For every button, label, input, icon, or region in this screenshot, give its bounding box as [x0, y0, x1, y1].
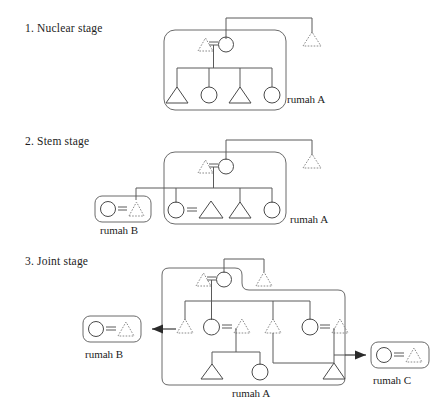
female-circle-rumah-b-stage3	[89, 322, 104, 337]
female-circle-daughter-stage2	[264, 202, 280, 218]
house-box-rumah-c-stage3	[371, 342, 429, 368]
sibling-link-stage1	[226, 18, 312, 39]
female-circle-rumah-c-stage3	[377, 348, 392, 363]
female-circle-child4-stage1	[264, 87, 280, 103]
male-triangle-brother-in-law-stage3	[256, 272, 272, 286]
female-circle-daughter2-stage3	[302, 319, 318, 335]
sibling-link-stage3	[224, 259, 264, 273]
house-box-rumah-b-stage2	[95, 196, 151, 222]
male-triangle-rumah-b-stage2	[129, 202, 144, 216]
male-triangle-outside-sibling-stage1	[303, 32, 321, 46]
stage-1-group	[164, 18, 321, 110]
male-triangle-rumah-c-stage3	[406, 348, 422, 362]
male-triangle-son2-stage3	[265, 319, 281, 333]
female-circle-grandchild2-stage3	[252, 364, 268, 380]
female-circle-mother-stage1	[219, 37, 234, 52]
diagram-svg-layer	[0, 0, 443, 410]
stage-3-group	[83, 259, 429, 385]
male-triangle-son-stage2	[229, 202, 251, 218]
house-box-rumah-a-stage1	[164, 30, 286, 110]
male-triangle-grandchild3-stage3	[323, 363, 345, 379]
female-circle-daughter1-stage3	[204, 319, 220, 335]
sibling-link-stage2	[226, 140, 312, 160]
female-circle-mother-stage3	[217, 272, 232, 287]
house-box-rumah-b-stage3	[83, 316, 141, 342]
arrow-head-to-rumah-c-stage3	[355, 351, 366, 360]
male-triangle-rumah-b-stage3	[118, 322, 134, 336]
male-triangle-child3-stage1	[229, 87, 251, 103]
stage-2-group	[95, 140, 321, 224]
arrow-head-to-rumah-b-stage3	[152, 325, 163, 334]
kinship-diagram: 1. Nuclear stage 2. Stem stage 3. Joint …	[0, 0, 443, 410]
male-triangle-grandchild1-stage3	[201, 364, 223, 379]
male-triangle-son1-stage3	[177, 319, 193, 333]
male-triangle-son-in-law-stage2	[199, 201, 223, 218]
male-triangle-outside-sibling-stage2	[303, 154, 321, 168]
female-circle-daughter-married-stage2	[168, 202, 184, 218]
female-circle-rumah-b-stage2	[101, 202, 116, 217]
male-triangle-child1-stage1	[166, 87, 188, 103]
female-circle-child2-stage1	[201, 87, 217, 103]
female-circle-mother-stage2	[219, 159, 234, 174]
link-son2-to-junction-stage3	[273, 333, 334, 363]
